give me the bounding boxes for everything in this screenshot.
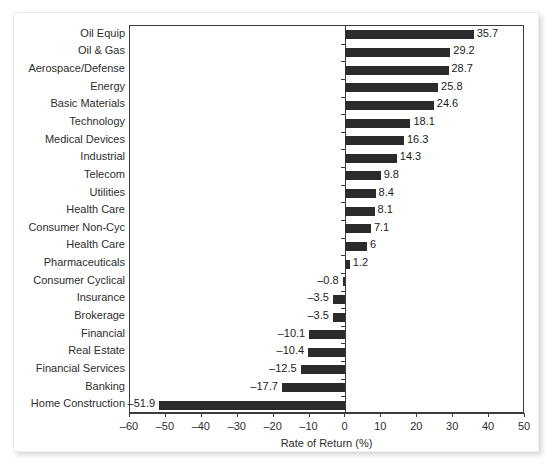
bar	[301, 365, 346, 374]
x-axis-line	[129, 413, 524, 414]
x-axis-tick	[416, 413, 417, 417]
value-label: –17.7	[250, 381, 278, 392]
value-label: 29.2	[453, 45, 474, 56]
value-label: 7.1	[374, 222, 389, 233]
bar	[345, 30, 473, 39]
category-tick	[341, 79, 345, 80]
x-axis-tick-label: –20	[253, 420, 293, 432]
category-label: Health Care	[1, 204, 125, 215]
bar	[308, 348, 345, 357]
category-tick	[341, 379, 345, 380]
category-tick	[341, 396, 345, 397]
category-tick	[341, 361, 345, 362]
category-tick	[341, 220, 345, 221]
x-axis-tick-label: 20	[396, 420, 436, 432]
x-axis-tick	[201, 413, 202, 417]
value-label: –3.5	[307, 292, 328, 303]
value-label: 24.6	[437, 98, 458, 109]
category-label: Pharmaceuticals	[1, 257, 125, 268]
bar	[345, 119, 410, 128]
x-axis-tick	[380, 413, 381, 417]
category-tick	[341, 308, 345, 309]
bar	[345, 189, 375, 198]
bar	[345, 136, 404, 145]
x-axis-tick	[488, 413, 489, 417]
category-tick	[341, 291, 345, 292]
value-label: 18.1	[413, 116, 434, 127]
category-label: Telecom	[1, 169, 125, 180]
category-label: Home Construction	[1, 398, 125, 409]
category-label: Utilities	[1, 187, 125, 198]
category-label: Brokerage	[1, 310, 125, 321]
category-tick	[341, 132, 345, 133]
category-label: Basic Materials	[1, 98, 125, 109]
bar	[159, 401, 345, 410]
x-axis-tick	[452, 413, 453, 417]
x-axis-tick	[344, 413, 345, 417]
x-axis-tick-label: 0	[324, 420, 364, 432]
category-tick	[341, 114, 345, 115]
category-tick	[341, 343, 345, 344]
category-label: Medical Devices	[1, 134, 125, 145]
value-label: –10.4	[277, 345, 305, 356]
category-label: Financial Services	[1, 363, 125, 374]
category-label: Insurance	[1, 292, 125, 303]
category-label: Real Estate	[1, 345, 125, 356]
bar	[345, 48, 450, 57]
bar	[343, 277, 346, 286]
category-tick	[341, 273, 345, 274]
category-tick	[341, 255, 345, 256]
category-tick	[341, 149, 345, 150]
x-axis-title: Rate of Return (%)	[129, 437, 524, 449]
value-label: 9.8	[384, 169, 399, 180]
value-label: –10.1	[278, 328, 306, 339]
category-label: Energy	[1, 81, 125, 92]
bar	[345, 224, 370, 233]
bar	[345, 154, 396, 163]
category-label: Consumer Cyclical	[1, 275, 125, 286]
category-tick	[341, 61, 345, 62]
x-axis-tick-label: –40	[181, 420, 221, 432]
value-label: 25.8	[441, 81, 462, 92]
category-label: Banking	[1, 381, 125, 392]
value-label: –51.9	[128, 398, 156, 409]
bar	[345, 171, 380, 180]
category-label: Oil Equip	[1, 28, 125, 39]
value-label: 1.2	[353, 257, 368, 268]
bar	[309, 330, 345, 339]
x-axis-tick-label: –10	[289, 420, 329, 432]
bar	[345, 101, 433, 110]
bar	[345, 83, 438, 92]
bar	[282, 383, 346, 392]
category-label: Technology	[1, 116, 125, 127]
category-tick	[341, 44, 345, 45]
category-label: Consumer Non-Cyc	[1, 222, 125, 233]
value-label: 14.3	[400, 151, 421, 162]
value-label: 35.7	[477, 28, 498, 39]
value-label: 6	[370, 239, 376, 250]
x-axis-tick-label: –50	[145, 420, 185, 432]
x-axis-tick-label: –30	[217, 420, 257, 432]
category-label: Oil & Gas	[1, 45, 125, 56]
x-axis-tick-label: 50	[504, 420, 544, 432]
x-axis-tick-label: 30	[432, 420, 472, 432]
category-tick	[341, 97, 345, 98]
category-tick	[341, 238, 345, 239]
bar	[333, 313, 346, 322]
bar	[333, 295, 346, 304]
x-axis-tick	[165, 413, 166, 417]
category-label: Health Care	[1, 239, 125, 250]
x-axis-tick-label: 40	[468, 420, 508, 432]
value-label: 16.3	[407, 134, 428, 145]
x-axis-tick-label: –60	[109, 420, 149, 432]
value-label: –12.5	[269, 363, 297, 374]
value-label: 8.4	[379, 187, 394, 198]
bar	[345, 260, 349, 269]
category-axis-labels: Oil EquipOil & GasAerospace/DefenseEnerg…	[0, 25, 125, 413]
value-label: –3.5	[307, 310, 328, 321]
category-tick	[341, 202, 345, 203]
value-label: –0.8	[317, 275, 338, 286]
category-tick	[341, 185, 345, 186]
x-axis-tick-label: 10	[360, 420, 400, 432]
x-axis-tick	[237, 413, 238, 417]
